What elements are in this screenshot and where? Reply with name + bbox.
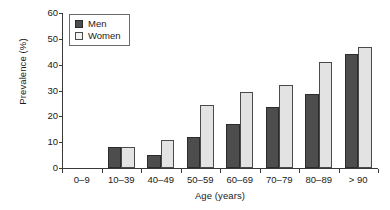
- x-tick-label: > 90: [349, 175, 368, 185]
- legend-swatch-icon: [75, 20, 83, 28]
- prevalence-by-age-bar-chart: Prevalence (%) 0102030405060 0–910–3940–…: [0, 0, 390, 210]
- x-tick-mark: [339, 169, 340, 173]
- bar-men-4: [226, 124, 240, 168]
- x-tick-label: 60–69: [227, 175, 253, 185]
- bar-women-4: [240, 92, 254, 168]
- x-tick-mark: [220, 169, 221, 173]
- legend-label: Women: [88, 31, 121, 41]
- y-tick-mark: [59, 116, 63, 117]
- y-tick-label: 30: [33, 86, 58, 96]
- chart-legend: MenWomen: [69, 14, 130, 46]
- y-tick-mark: [59, 65, 63, 66]
- x-tick-mark: [62, 169, 63, 173]
- y-tick-mark: [59, 13, 63, 14]
- x-tick-mark: [102, 169, 103, 173]
- y-axis-title: Prevalence (%): [17, 12, 28, 132]
- y-tick-label: 10: [33, 137, 58, 147]
- y-axis-tick-labels: 0102030405060: [33, 0, 58, 210]
- x-axis-title: Age (years): [62, 190, 378, 201]
- y-tick-label: 20: [33, 112, 58, 122]
- y-tick-label: 50: [33, 34, 58, 44]
- bar-women-2: [161, 140, 175, 168]
- y-tick-mark: [59, 39, 63, 40]
- x-tick-label: 80–89: [306, 175, 332, 185]
- x-tick-mark: [260, 169, 261, 173]
- x-axis-tick-labels: 0–910–3940–4950–5960–6970–7980–89> 90: [62, 175, 378, 189]
- x-tick-mark: [299, 169, 300, 173]
- x-tick-label: 40–49: [148, 175, 174, 185]
- x-tick-label: 0–9: [74, 175, 90, 185]
- y-tick-label: 0: [33, 163, 58, 173]
- x-tick-label: 70–79: [266, 175, 292, 185]
- y-tick-mark: [59, 142, 63, 143]
- bar-women-1: [121, 147, 135, 168]
- bar-men-5: [266, 107, 280, 168]
- y-tick-mark: [59, 91, 63, 92]
- bar-women-7: [358, 47, 372, 168]
- bar-women-3: [200, 105, 214, 168]
- y-tick-label: 40: [33, 60, 58, 70]
- bar-men-6: [305, 94, 319, 168]
- bar-men-1: [108, 147, 122, 168]
- legend-label: Men: [88, 19, 106, 29]
- x-tick-mark: [181, 169, 182, 173]
- x-tick-label: 10–39: [108, 175, 134, 185]
- legend-swatch-icon: [75, 32, 83, 40]
- legend-entry-women: Women: [75, 30, 121, 42]
- bar-women-5: [279, 85, 293, 168]
- x-tick-mark: [141, 169, 142, 173]
- y-tick-label: 60: [33, 8, 58, 18]
- bar-men-2: [147, 155, 161, 168]
- bar-women-6: [319, 62, 333, 168]
- bar-men-3: [187, 137, 201, 168]
- x-tick-mark: [378, 169, 379, 173]
- bar-men-7: [345, 54, 359, 168]
- x-tick-label: 50–59: [187, 175, 213, 185]
- legend-entry-men: Men: [75, 18, 121, 30]
